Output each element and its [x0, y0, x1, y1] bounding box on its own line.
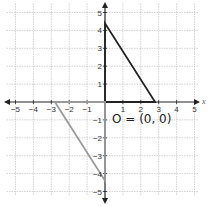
y-tick-label: 5 — [98, 9, 103, 18]
x-tick-label: −3 — [47, 105, 57, 114]
y-tick-label: −4 — [93, 170, 103, 179]
origin-label: O = (0, 0) — [112, 112, 171, 126]
x-tick-label: 4 — [174, 105, 179, 114]
coordinate-grid: −5−4−3−2−11234554321−1−2−3−4−5 O = (0, 0… — [0, 0, 208, 206]
arrow-up-icon — [102, 2, 108, 8]
x-axis-label: x — [201, 97, 206, 106]
y-tick-label: 2 — [98, 62, 103, 71]
arrow-down-icon — [102, 198, 108, 204]
y-tick-label: −1 — [93, 116, 103, 125]
x-tick-label: −1 — [83, 105, 93, 114]
y-tick-label: 4 — [98, 26, 103, 35]
x-tick-label: −5 — [11, 105, 21, 114]
y-tick-label: −2 — [93, 134, 103, 143]
y-tick-label: −5 — [93, 188, 103, 197]
grid-lines — [7, 4, 199, 196]
y-tick-label: 3 — [98, 44, 103, 53]
x-tick-label: −4 — [29, 105, 39, 114]
original-triangle — [105, 23, 155, 102]
y-tick-label: 1 — [98, 80, 103, 89]
arrow-left-icon — [4, 99, 10, 105]
coordinate-plane-diagram: −5−4−3−2−11234554321−1−2−3−4−5 O = (0, 0… — [0, 0, 208, 206]
x-tick-label: 5 — [192, 105, 197, 114]
triangles — [55, 23, 155, 181]
y-tick-label: −3 — [93, 152, 103, 161]
x-tick-label: −2 — [65, 105, 75, 114]
